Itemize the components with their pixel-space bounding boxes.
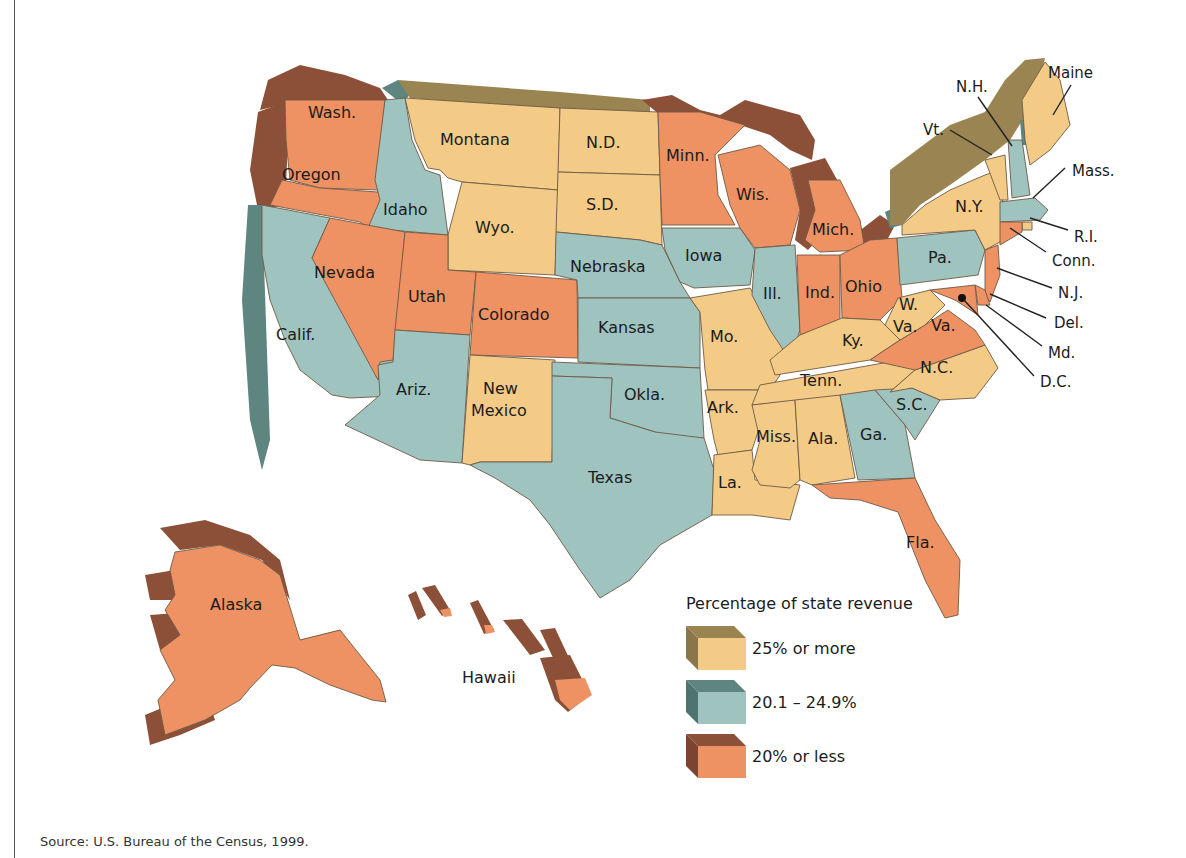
callout-vt: Vt. [923, 121, 944, 139]
label-tenn: Tenn. [799, 371, 842, 390]
label-montana: Montana [440, 130, 510, 149]
label-mich: Mich. [812, 220, 854, 239]
legend-swatch-yellow [686, 626, 746, 670]
callout-maine: Maine [1048, 64, 1093, 82]
legend-swatch-teal [686, 680, 746, 724]
callout-md: Md. [1048, 344, 1075, 362]
label-nd: N.D. [586, 133, 620, 152]
callout-nj: N.J. [1058, 284, 1083, 302]
label-calif: Calif. [276, 325, 315, 344]
label-pa: Pa. [928, 248, 952, 267]
label-fla: Fla. [906, 533, 935, 552]
label-sd: S.D. [586, 195, 619, 214]
alaska [145, 520, 386, 745]
label-nc: N.C. [920, 358, 953, 377]
label-iowa: Iowa [685, 246, 722, 265]
callout-mass: Mass. [1072, 162, 1115, 180]
legend-label: 20.1 – 24.9% [752, 693, 857, 712]
callout-nh: N.H. [956, 78, 988, 96]
label-ala: Ala. [808, 429, 838, 448]
state-alaska [158, 545, 386, 735]
callout-dc: D.C. [1040, 373, 1072, 391]
legend: Percentage of state revenue 25% or more … [686, 594, 946, 783]
label-wva2: Va. [893, 317, 918, 336]
callout-conn: Conn. [1052, 252, 1095, 270]
hawaii [408, 585, 592, 712]
callout-ri: R.I. [1074, 228, 1098, 246]
label-nm1: New [483, 379, 518, 398]
legend-label: 20% or less [752, 747, 845, 766]
state-michigan [805, 180, 865, 252]
label-minn: Minn. [666, 146, 710, 165]
label-kansas: Kansas [598, 318, 655, 337]
state-rhode-island [1022, 222, 1032, 230]
label-ariz: Ariz. [396, 380, 431, 399]
legend-item-20-to-25: 20.1 – 24.9% [686, 675, 946, 729]
label-wash: Wash. [308, 103, 356, 122]
label-nevada: Nevada [314, 263, 375, 282]
label-mo: Mo. [710, 327, 738, 346]
label-okla: Okla. [624, 385, 665, 404]
label-ohio: Ohio [845, 277, 882, 296]
label-ga: Ga. [860, 425, 887, 444]
state-new-jersey [985, 245, 1000, 302]
label-nm2: Mexico [471, 401, 527, 420]
us-revenue-map: .y { fill: #f3cb86; } .ys { fill: #9a855… [0, 0, 1186, 858]
label-ill: Ill. [763, 284, 782, 303]
label-miss: Miss. [756, 427, 796, 446]
label-idaho: Idaho [383, 200, 428, 219]
label-sc: S.C. [896, 395, 928, 414]
label-oregon: Oregon [282, 165, 341, 184]
label-wva1: W. [899, 295, 918, 314]
label-va: Va. [931, 316, 956, 335]
legend-swatch-orange [686, 734, 746, 778]
label-la: La. [718, 473, 742, 492]
label-ind: Ind. [805, 283, 835, 302]
legend-item-25-or-more: 25% or more [686, 621, 946, 675]
state-massachusetts [1000, 198, 1048, 222]
legend-label: 25% or more [752, 639, 856, 658]
label-nebraska: Nebraska [570, 257, 645, 276]
label-texas: Texas [587, 468, 632, 487]
label-colorado: Colorado [478, 305, 550, 324]
legend-item-20-or-less: 20% or less [686, 729, 946, 783]
label-ark: Ark. [707, 398, 739, 417]
label-alaska: Alaska [210, 595, 262, 614]
label-ky: Ky. [842, 331, 864, 350]
label-hawaii: Hawaii [462, 668, 516, 687]
source-note: Source: U.S. Bureau of the Census, 1999. [40, 834, 309, 849]
callout-del: Del. [1054, 314, 1084, 332]
legend-title: Percentage of state revenue [686, 594, 946, 613]
label-wis: Wis. [736, 185, 769, 204]
label-wyo: Wyo. [475, 218, 515, 237]
label-utah: Utah [408, 287, 446, 306]
label-ny: N.Y. [955, 197, 984, 216]
